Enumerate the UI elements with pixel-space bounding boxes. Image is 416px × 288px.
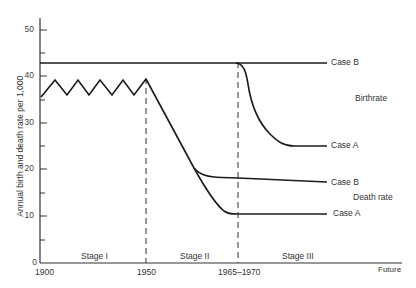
- birth-case-a-label: Case A: [331, 141, 358, 150]
- stage-two-label: Stage II: [180, 252, 209, 261]
- x-label-future: Future: [378, 266, 401, 274]
- death-rate-case-a-line: [194, 168, 327, 214]
- y-axis-label: Annual birth and death rate per 1,000: [16, 66, 25, 226]
- stage-one-label: Stage I: [81, 252, 108, 261]
- death-rate-decline-line: [146, 79, 194, 168]
- birthrate-case-a-line: [236, 63, 327, 146]
- death-case-a-label: Case A: [333, 209, 360, 218]
- y-ticks: [40, 30, 47, 240]
- x-label-1965-1970: 1965–1970: [218, 268, 261, 277]
- death-rate-case-b-line: [194, 168, 327, 182]
- death-rate-label: Death rate: [353, 193, 393, 202]
- birth-case-b-label: Case B: [331, 58, 359, 67]
- death-case-b-label: Case B: [331, 178, 359, 187]
- y-tick-0: 0: [17, 258, 37, 267]
- stage-one-fluctuation-line: [41, 79, 146, 97]
- y-tick-50: 50: [14, 25, 34, 34]
- x-label-1900: 1900: [35, 268, 54, 277]
- stage-three-label: Stage III: [282, 252, 314, 261]
- birthrate-label: Birthrate: [355, 94, 387, 103]
- x-label-1950: 1950: [137, 268, 156, 277]
